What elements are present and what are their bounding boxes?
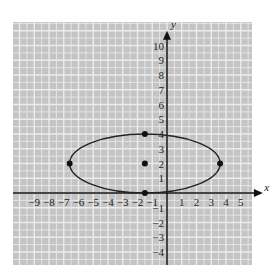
x-tick-label: −9 (28, 196, 40, 208)
y-tick-label: 7 (159, 84, 165, 96)
x-tick-label: −6 (73, 196, 85, 208)
x-tick-label: −3 (117, 196, 129, 208)
y-tick-label: 8 (159, 69, 165, 81)
x-tick-label: −4 (102, 196, 114, 208)
y-tick-label: 6 (159, 99, 165, 111)
x-axis-label: x (263, 181, 269, 193)
x-axis-arrow-icon (254, 189, 263, 197)
y-tick-label: −2 (152, 217, 164, 229)
x-tick-label: 4 (223, 196, 229, 208)
y-tick-label: 1 (159, 172, 165, 184)
y-tick-label: 5 (159, 113, 165, 125)
x-tick-label: −7 (58, 196, 70, 208)
y-tick-label: 9 (159, 54, 165, 66)
x-tick-label: −8 (43, 196, 55, 208)
y-tick-label: −4 (152, 246, 164, 258)
y-tick-label: 3 (159, 143, 165, 155)
data-point (142, 161, 148, 167)
y-tick-label: 10 (153, 40, 165, 52)
x-tick-label: 2 (194, 196, 200, 208)
x-tick-label: −5 (87, 196, 99, 208)
data-point (142, 131, 148, 137)
y-tick-label: −3 (152, 231, 164, 243)
y-tick-label: 2 (159, 158, 165, 170)
data-point (142, 190, 148, 196)
y-tick-label: −1 (152, 202, 164, 214)
x-tick-label: −2 (132, 196, 144, 208)
data-point (67, 161, 73, 167)
data-point (217, 161, 223, 167)
x-tick-label: 3 (209, 196, 215, 208)
x-tick-label: 1 (179, 196, 185, 208)
y-axis-label: y (170, 18, 176, 30)
ellipse-graph: xy−9−8−7−6−5−4−3−2−112345−4−3−2−11234567… (0, 0, 278, 277)
x-tick-label: 5 (238, 196, 244, 208)
